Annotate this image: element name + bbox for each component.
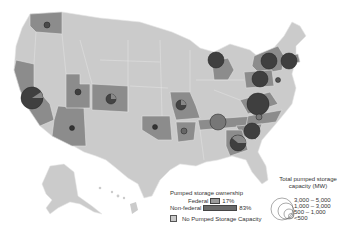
circle-new-york	[261, 53, 277, 69]
circle-virginia	[247, 93, 269, 115]
federal-label: Federal	[188, 198, 208, 204]
state-arizona	[52, 106, 86, 146]
circle-new-jersey	[276, 78, 281, 83]
nonfederal-label: Non-federal	[170, 205, 201, 211]
capacity-legend-title: Total pumped storage capacity (MW)	[270, 176, 346, 190]
circle-utah	[75, 89, 81, 95]
circle-pennsylvania	[252, 71, 268, 87]
hawaii	[99, 187, 138, 214]
nonfederal-bar	[203, 205, 237, 211]
circle-south-carolina	[244, 123, 260, 139]
circle-oklahoma	[153, 125, 158, 130]
capacity-size-legend-circles	[271, 198, 294, 220]
circle-arkansas	[181, 128, 187, 134]
ownership-nonfederal-row: Non-federal 83%	[170, 205, 251, 211]
capacity-class-4: <500	[294, 215, 308, 221]
circle-tennessee	[210, 114, 226, 130]
no-capacity-legend: No Pumped Storage Capacity	[170, 215, 261, 222]
ownership-federal-row: Federal 17%	[188, 198, 234, 204]
circle-washington	[44, 22, 50, 28]
capacity-title-line-2: capacity (MW)	[270, 183, 346, 190]
circle-michigan	[208, 52, 224, 68]
federal-value: 17%	[222, 198, 234, 204]
ownership-legend-title: Pumped storage ownership	[170, 190, 243, 197]
circle-massachusetts	[281, 53, 297, 69]
capacity-title-line-1: Total pumped storage	[270, 176, 346, 183]
circle-north-carolina	[256, 114, 262, 120]
no-capacity-label: No Pumped Storage Capacity	[182, 216, 261, 222]
nonfederal-value: 83%	[239, 205, 251, 211]
alaska	[42, 164, 102, 214]
no-capacity-swatch	[170, 215, 177, 222]
federal-bar	[210, 198, 220, 204]
circle-arizona	[70, 126, 75, 131]
